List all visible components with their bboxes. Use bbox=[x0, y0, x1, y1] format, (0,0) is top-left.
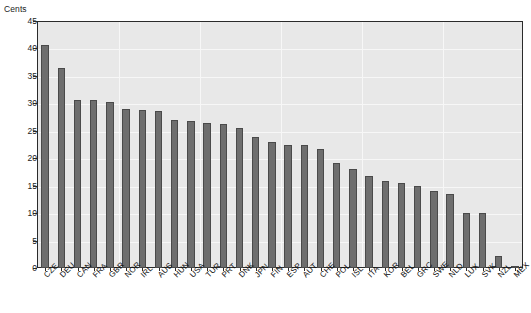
gridline-horizontal bbox=[38, 77, 522, 78]
gridline-horizontal bbox=[38, 104, 522, 105]
gridline-vertical bbox=[443, 22, 444, 267]
gridline-horizontal bbox=[38, 242, 522, 243]
gridline-horizontal bbox=[38, 132, 522, 133]
gridline-horizontal bbox=[38, 49, 522, 50]
y-axis: 051015202530354045 bbox=[0, 0, 37, 290]
gridline-horizontal bbox=[38, 159, 522, 160]
gridline-vertical bbox=[281, 22, 282, 267]
gridline-vertical bbox=[200, 22, 201, 267]
gridline-horizontal bbox=[38, 214, 522, 215]
gridline-vertical bbox=[362, 22, 363, 267]
gridline-vertical bbox=[119, 22, 120, 267]
plot-area bbox=[37, 21, 523, 268]
x-axis: CZEDEUCANFRAGBRNORIRLAUSHUNUSATURPRTDNKJ… bbox=[37, 268, 523, 313]
gridline-horizontal bbox=[38, 187, 522, 188]
cropped-title-remnant bbox=[0, 0, 527, 6]
